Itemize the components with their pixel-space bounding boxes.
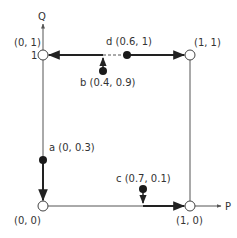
point-a bbox=[39, 156, 47, 164]
point-d bbox=[123, 51, 131, 59]
label-corner-q1: (0, 1) bbox=[14, 37, 41, 48]
label-point-c: c (0.7, 0.1) bbox=[116, 173, 171, 184]
corner-q1 bbox=[38, 50, 48, 60]
p-axis-label: P bbox=[225, 201, 231, 212]
point-b bbox=[99, 67, 107, 75]
point-c bbox=[139, 185, 147, 193]
corner-pq1 bbox=[185, 50, 195, 60]
label-point-d: d (0.6, 1) bbox=[106, 36, 152, 47]
label-corner-origin: (0, 0) bbox=[14, 215, 41, 226]
label-point-a: a (0, 0.3) bbox=[49, 142, 95, 153]
label-point-b: b (0.4, 0.9) bbox=[80, 77, 136, 88]
phase-diagram: Q P 1 (0, 1) (1, 1) bbox=[0, 0, 237, 238]
label-corner-pq1: (1, 1) bbox=[194, 37, 221, 48]
corner-p1 bbox=[185, 201, 195, 211]
q-axis-label: Q bbox=[38, 11, 46, 22]
corner-origin bbox=[38, 201, 48, 211]
filled-points bbox=[39, 51, 147, 193]
label-corner-p1: (1, 0) bbox=[176, 215, 203, 226]
corner-points bbox=[38, 50, 195, 211]
y-tick-1: 1 bbox=[31, 50, 37, 61]
